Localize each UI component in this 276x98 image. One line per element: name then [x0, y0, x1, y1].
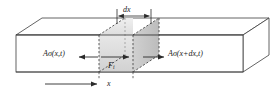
- dx-label: dx: [123, 6, 131, 14]
- internal-force-label: Fi: [108, 62, 115, 71]
- position-label: x: [107, 80, 111, 88]
- force-subscript: i: [113, 64, 115, 70]
- stress-left-label: Aσ(x,t): [43, 50, 65, 58]
- element-front-face: [99, 35, 133, 72]
- figure-container: dx Aσ(x,t) Aσ(x+dx,t) Fi x: [0, 0, 276, 98]
- stress-right-label: Aσ(x+dx,t): [168, 50, 203, 58]
- bar-element-diagram: [0, 0, 276, 98]
